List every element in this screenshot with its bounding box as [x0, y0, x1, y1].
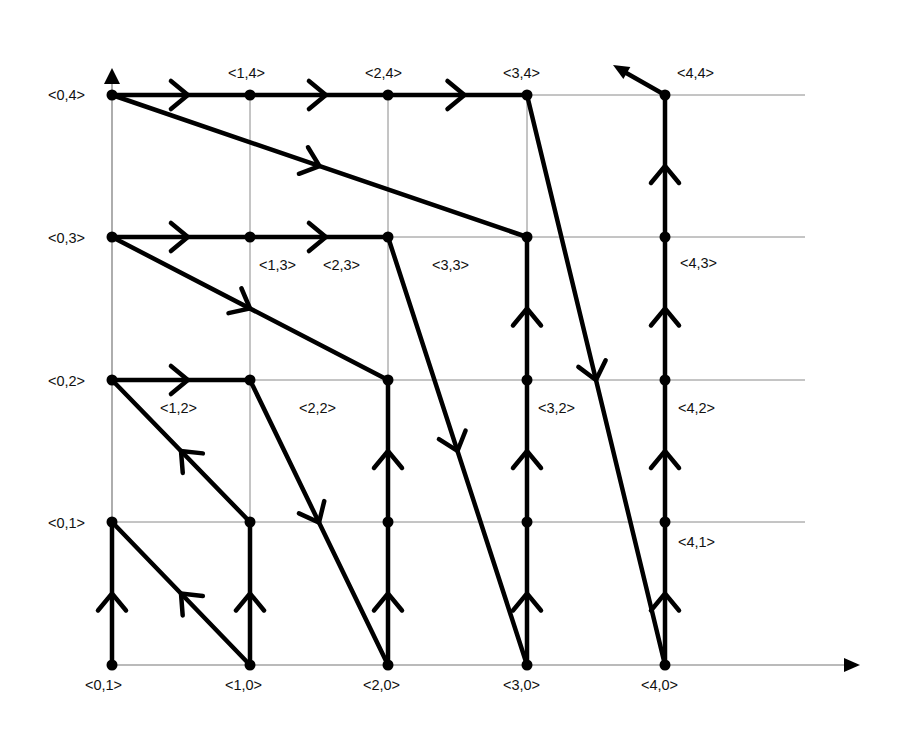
lattice-node: [383, 232, 394, 243]
node-label: <0,1>: [85, 677, 122, 693]
lattice-node: [522, 375, 533, 386]
lattice-node: [245, 517, 256, 528]
lattice-node: [107, 232, 118, 243]
lattice-node: [107, 375, 118, 386]
lattice-node: [383, 90, 394, 101]
node-label: <4,0>: [641, 677, 678, 693]
lattice-node: [245, 232, 256, 243]
lattice-node: [522, 232, 533, 243]
node-label: <2,3>: [323, 257, 360, 273]
node-label: <4,4>: [677, 65, 714, 81]
lattice-node: [660, 232, 671, 243]
x-axis-arrow-icon: [844, 658, 860, 672]
lattice-node: [522, 517, 533, 528]
axes: [104, 68, 860, 672]
node-label: <0,4>: [48, 87, 85, 103]
node-label: <4,2>: [678, 400, 715, 416]
lattice-node: [245, 90, 256, 101]
node-label: <3,2>: [538, 400, 575, 416]
lattice-node: [245, 660, 256, 671]
lattice-node: [107, 90, 118, 101]
node-label: <2,4>: [365, 65, 402, 81]
node-label: <3,0>: [503, 677, 540, 693]
lattice-node: [107, 517, 118, 528]
node-label: <2,2>: [299, 400, 336, 416]
node-label: <3,3>: [432, 257, 469, 273]
lattice-node: [383, 375, 394, 386]
node-label: <1,3>: [259, 257, 296, 273]
lattice-node: [660, 660, 671, 671]
lattice-node: [383, 660, 394, 671]
lattice-node: [522, 660, 533, 671]
node-label: <1,4>: [228, 65, 265, 81]
y-axis-arrow-icon: [104, 68, 120, 84]
lattice-node: [660, 517, 671, 528]
node-label: <0,2>: [48, 373, 85, 389]
node-label: <0,3>: [48, 230, 85, 246]
exit-edge: [621, 70, 665, 95]
lattice-node: [107, 660, 118, 671]
lattice-diagram: <0,4><1,4><2,4><3,4><4,4><0,3><1,3><2,3>…: [0, 0, 905, 733]
lattice-node: [660, 90, 671, 101]
node-label: <2,0>: [363, 677, 400, 693]
node-label: <4,3>: [680, 255, 717, 271]
lattice-node: [383, 517, 394, 528]
lattice-node: [522, 90, 533, 101]
lattice-node: [245, 375, 256, 386]
node-label: <3,4>: [503, 65, 540, 81]
node-label: <1,2>: [160, 400, 197, 416]
node-label: <0,1>: [48, 515, 85, 531]
node-label: <1,0>: [225, 677, 262, 693]
node-label: <4,1>: [678, 534, 715, 550]
lattice-node: [660, 375, 671, 386]
